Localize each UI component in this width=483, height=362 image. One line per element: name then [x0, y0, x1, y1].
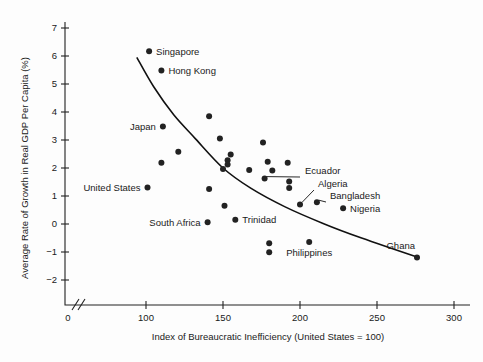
data-point: [158, 68, 164, 74]
data-point: [175, 149, 181, 155]
data-point: [269, 168, 275, 174]
data-point: [228, 152, 234, 158]
point-label: Japan: [130, 121, 156, 132]
x-tick-label: 150: [215, 312, 231, 323]
y-axis-title: Average Rate of Growth in Real GDP Per C…: [19, 57, 30, 279]
point-label: Ecuador: [305, 165, 340, 176]
data-point: [414, 255, 420, 261]
plot-canvas: −2−1012345670100150200250300 SingaporeHo…: [0, 0, 483, 362]
y-tick-label: 7: [52, 22, 57, 33]
data-point: [266, 249, 272, 255]
data-point: [158, 160, 164, 166]
data-points: [145, 48, 421, 260]
data-point: [286, 178, 292, 184]
axes-layer: −2−1012345670100150200250300: [46, 22, 470, 323]
point-label: Trinidad: [242, 214, 276, 225]
data-point: [232, 217, 238, 223]
point-label: South Africa: [149, 217, 201, 228]
x-tick-label: 100: [138, 312, 154, 323]
y-tick-label: −2: [46, 274, 57, 285]
point-label: Philippines: [286, 247, 332, 258]
y-tick-label: 0: [52, 218, 57, 229]
y-tick-label: 1: [52, 190, 57, 201]
x-tick-label: 200: [292, 312, 308, 323]
y-tick-label: 5: [52, 78, 57, 89]
x-tick-label: 250: [369, 312, 385, 323]
data-point: [146, 48, 152, 54]
point-label: Nigeria: [350, 203, 381, 214]
data-point: [145, 185, 151, 191]
data-point: [340, 205, 346, 211]
x-tick-label: 300: [446, 312, 462, 323]
data-point: [206, 113, 212, 119]
point-label: Singapore: [156, 46, 199, 57]
x-tick-label: 0: [65, 312, 70, 323]
leader-line: [319, 200, 326, 202]
data-point: [160, 124, 166, 130]
data-point: [260, 140, 266, 146]
data-point: [285, 160, 291, 166]
data-point: [220, 166, 226, 172]
point-labels: SingaporeHong KongJapanUnited StatesSout…: [83, 46, 415, 258]
y-tick-label: 3: [52, 134, 57, 145]
point-label: Algeria: [318, 178, 348, 189]
y-tick-label: 6: [52, 50, 57, 61]
data-point: [217, 136, 223, 142]
scatter-plot-figure: −2−1012345670100150200250300 SingaporeHo…: [0, 0, 483, 362]
point-label: Ghana: [386, 240, 415, 251]
data-point: [206, 186, 212, 192]
data-point: [222, 203, 228, 209]
data-point: [225, 162, 231, 168]
y-tick-label: −1: [46, 246, 57, 257]
x-axis-title: Index of Bureaucratic Inefficiency (Unit…: [152, 331, 384, 342]
leader-line: [302, 190, 314, 202]
data-point: [265, 159, 271, 165]
data-point: [286, 185, 292, 191]
point-label: Hong Kong: [168, 65, 216, 76]
y-tick-label: 2: [52, 162, 57, 173]
point-label: Bangladesh: [330, 190, 380, 201]
point-label: United States: [83, 182, 140, 193]
y-tick-label: 4: [52, 106, 57, 117]
data-point: [266, 240, 272, 246]
data-point: [246, 167, 252, 173]
data-point: [205, 219, 211, 225]
data-point: [306, 239, 312, 245]
